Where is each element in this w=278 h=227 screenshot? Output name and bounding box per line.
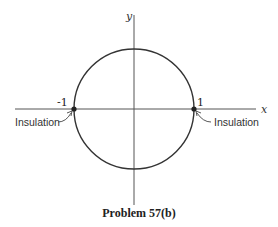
insulation-label-left: Insulation [15,116,60,128]
tick-label-one: 1 [197,96,204,109]
arrow-right-icon [197,113,211,122]
figure-caption: Problem 57(b) [0,206,278,221]
x-axis-label: x [261,103,268,116]
tick-label-neg-one: -1 [57,96,68,109]
diagram-canvas: y x -1 1 Insulation Insulation [0,0,278,227]
y-axis-label: y [125,10,133,23]
insulation-label-right: Insulation [214,116,259,128]
